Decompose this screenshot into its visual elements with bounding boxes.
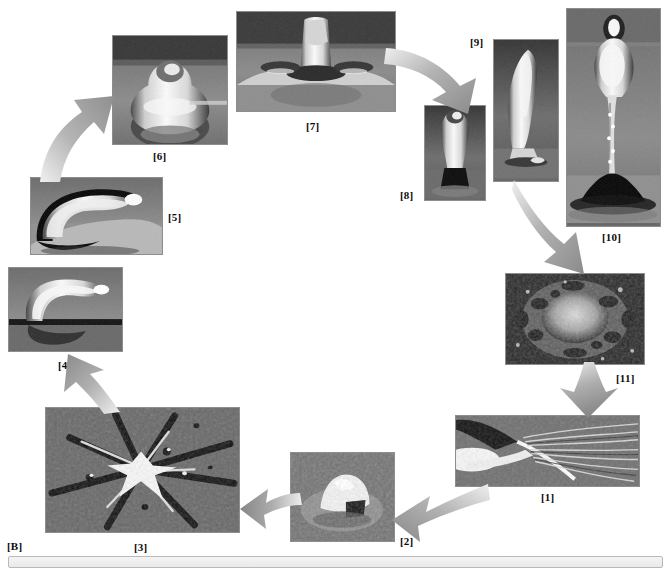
panel-8-photo xyxy=(425,106,485,199)
panel-4-label: [4] xyxy=(58,359,71,371)
panel-11-label: [11] xyxy=(616,372,635,384)
panel-5-label: [5] xyxy=(168,211,181,223)
caption-box xyxy=(8,556,663,568)
figure-panel-b: [6] [7] xyxy=(0,0,671,568)
panel-3-photo xyxy=(46,408,239,533)
panel-7-photo xyxy=(237,12,395,112)
arrow-5-to-6 xyxy=(34,92,120,184)
panel-1-photo xyxy=(456,416,639,487)
panel-1-label: [1] xyxy=(541,491,554,503)
panel-10-label: [10] xyxy=(602,231,621,243)
panel-9-label: [9] xyxy=(470,36,483,48)
figure-panel-label: [B] xyxy=(7,540,22,552)
panel-1 xyxy=(455,415,640,487)
panel-11 xyxy=(505,273,645,365)
panel-6 xyxy=(112,35,228,145)
panel-8-label: [8] xyxy=(400,189,413,201)
panel-8 xyxy=(424,105,486,201)
panel-10-photo xyxy=(567,9,660,223)
panel-4 xyxy=(8,267,123,352)
panel-6-label: [6] xyxy=(153,150,166,162)
panel-9 xyxy=(493,39,559,182)
panel-6-photo xyxy=(113,36,227,144)
panel-2-label: [2] xyxy=(400,535,413,547)
panel-2-photo xyxy=(291,453,394,541)
panel-7 xyxy=(236,11,396,112)
arrow-11-to-1 xyxy=(558,362,622,420)
panel-4-photo xyxy=(9,268,122,352)
panel-9-photo xyxy=(494,40,558,179)
panel-7-label: [7] xyxy=(306,120,319,132)
panel-5-photo xyxy=(31,178,162,255)
panel-3-label: [3] xyxy=(134,541,147,553)
panel-2 xyxy=(290,452,395,542)
panel-3 xyxy=(45,407,240,533)
panel-5 xyxy=(30,177,163,255)
panel-11-photo xyxy=(506,274,644,365)
panel-10 xyxy=(566,8,661,227)
